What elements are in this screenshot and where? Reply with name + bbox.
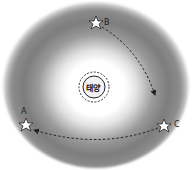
star-label-b: B	[104, 19, 110, 27]
star-icon-b	[89, 16, 103, 29]
diagram: 태양 B A C	[0, 0, 192, 170]
star-label-c: C	[174, 121, 180, 129]
star-label-a: A	[21, 108, 26, 116]
star-icon-a	[19, 118, 33, 131]
sun-label: 태양	[86, 82, 100, 93]
path-b-to-c	[102, 27, 155, 95]
star-icon-c	[157, 119, 171, 132]
path-c-to-a	[34, 128, 158, 140]
